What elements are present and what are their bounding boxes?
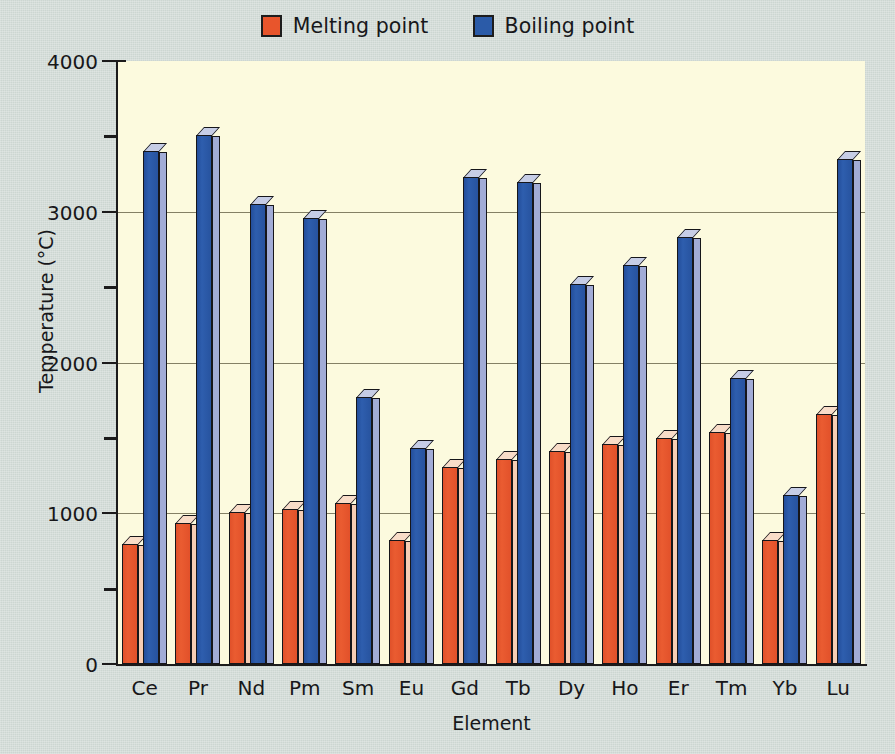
chart-page: Melting point Boiling point 010002000300… [0, 0, 895, 754]
y-tick-label-0: 0 [12, 653, 98, 677]
bar-boiling-pm-side [319, 219, 327, 664]
legend-label-boiling-point: Boiling point [505, 14, 635, 38]
bar-melting-er[interactable] [656, 429, 672, 664]
x-tick-label-sm: Sm [331, 676, 384, 700]
bar-group-tb [492, 61, 545, 664]
bar-group-dy [545, 61, 598, 664]
x-tick-label-ho: Ho [598, 676, 651, 700]
bar-boiling-sm-side [372, 398, 380, 664]
x-tick-label-pr: Pr [171, 676, 224, 700]
chart-legend: Melting point Boiling point [0, 14, 895, 38]
bar-boiling-ce[interactable] [143, 142, 159, 664]
bar-melting-yb-front [762, 540, 778, 664]
bar-melting-nd-front [229, 512, 245, 664]
bar-group-gd [438, 61, 491, 664]
bar-boiling-ho[interactable] [623, 256, 639, 664]
bar-melting-gd-front [442, 467, 458, 664]
bar-boiling-pr-front [196, 135, 212, 664]
bar-boiling-gd-side [479, 178, 487, 664]
bar-group-ce [118, 61, 171, 664]
bar-boiling-eu-front [410, 448, 426, 664]
bar-melting-dy-front [549, 451, 565, 664]
bar-melting-pm[interactable] [282, 500, 298, 664]
bar-melting-dy[interactable] [549, 442, 565, 664]
bar-boiling-pm[interactable] [303, 209, 319, 664]
bar-boiling-tb-front [517, 182, 533, 664]
x-tick-label-lu: Lu [812, 676, 865, 700]
bar-boiling-ce-side [159, 152, 167, 664]
bar-melting-tm-front [709, 432, 725, 664]
bar-boiling-pm-front [303, 218, 319, 664]
bar-boiling-dy[interactable] [570, 275, 586, 664]
bar-melting-er-front [656, 438, 672, 664]
bar-melting-nd[interactable] [229, 503, 245, 664]
bar-boiling-yb-side [799, 496, 807, 664]
bar-melting-ce[interactable] [122, 535, 138, 664]
bar-boiling-gd[interactable] [463, 168, 479, 664]
bar-group-sm [331, 61, 384, 664]
bar-group-ho [598, 61, 651, 664]
bar-melting-yb[interactable] [762, 531, 778, 664]
x-tick-label-tm: Tm [705, 676, 758, 700]
bar-group-eu [385, 61, 438, 664]
bar-melting-tb[interactable] [496, 450, 512, 664]
bar-group-tm [705, 61, 758, 664]
bar-boiling-er[interactable] [677, 228, 693, 664]
bars-layer [118, 61, 865, 664]
x-tick-label-pm: Pm [278, 676, 331, 700]
x-axis-title: Element [118, 712, 865, 734]
bar-boiling-nd-side [266, 205, 274, 664]
bar-group-yb [758, 61, 811, 664]
bar-boiling-tm-side [746, 379, 754, 664]
bar-melting-ho[interactable] [602, 435, 618, 664]
y-axis-title: Temperature (°C) [35, 201, 57, 421]
x-tick-label-dy: Dy [545, 676, 598, 700]
bar-melting-sm[interactable] [335, 494, 351, 664]
x-tick-label-tb: Tb [492, 676, 545, 700]
x-tick-label-nd: Nd [225, 676, 278, 700]
bar-melting-pm-front [282, 509, 298, 664]
x-tick-label-eu: Eu [385, 676, 438, 700]
bar-boiling-er-front [677, 237, 693, 664]
bar-boiling-gd-front [463, 177, 479, 664]
x-tick-label-gd: Gd [438, 676, 491, 700]
bar-boiling-ho-front [623, 265, 639, 664]
bar-boiling-lu[interactable] [837, 150, 853, 664]
bar-melting-lu[interactable] [816, 405, 832, 664]
bar-boiling-lu-side [853, 160, 861, 664]
bar-melting-pr[interactable] [175, 514, 191, 664]
bar-boiling-pr[interactable] [196, 126, 212, 664]
bar-boiling-ce-front [143, 151, 159, 664]
bar-melting-lu-front [816, 414, 832, 664]
bar-boiling-tm[interactable] [730, 369, 746, 664]
bar-boiling-nd[interactable] [250, 195, 266, 664]
bar-boiling-ho-side [639, 266, 647, 664]
bar-boiling-eu[interactable] [410, 439, 426, 664]
x-tick-label-er: Er [652, 676, 705, 700]
legend-entry-melting-point[interactable]: Melting point [261, 14, 429, 38]
bar-melting-eu[interactable] [389, 531, 405, 664]
bar-melting-sm-front [335, 503, 351, 664]
bar-melting-gd[interactable] [442, 458, 458, 664]
bar-boiling-lu-front [837, 159, 853, 664]
bar-boiling-er-side [693, 238, 701, 664]
bar-boiling-yb-front [783, 495, 799, 664]
bar-boiling-tb[interactable] [517, 173, 533, 664]
bar-melting-ce-front [122, 544, 138, 664]
bar-group-lu [812, 61, 865, 664]
bar-boiling-pr-side [212, 136, 220, 664]
bar-melting-tb-front [496, 459, 512, 664]
square-swatch-icon-melting [261, 15, 282, 37]
bar-melting-eu-front [389, 540, 405, 664]
bar-boiling-sm[interactable] [356, 388, 372, 664]
bar-boiling-dy-front [570, 284, 586, 664]
legend-entry-boiling-point[interactable]: Boiling point [473, 14, 635, 38]
bar-boiling-eu-side [426, 449, 434, 664]
bar-melting-tm[interactable] [709, 423, 725, 664]
bar-boiling-yb[interactable] [783, 486, 799, 664]
bar-melting-pr-front [175, 523, 191, 664]
x-tick-label-yb: Yb [758, 676, 811, 700]
bar-melting-ho-front [602, 444, 618, 664]
y-tick-label-1000: 1000 [12, 502, 98, 526]
x-tick-label-ce: Ce [118, 676, 171, 700]
